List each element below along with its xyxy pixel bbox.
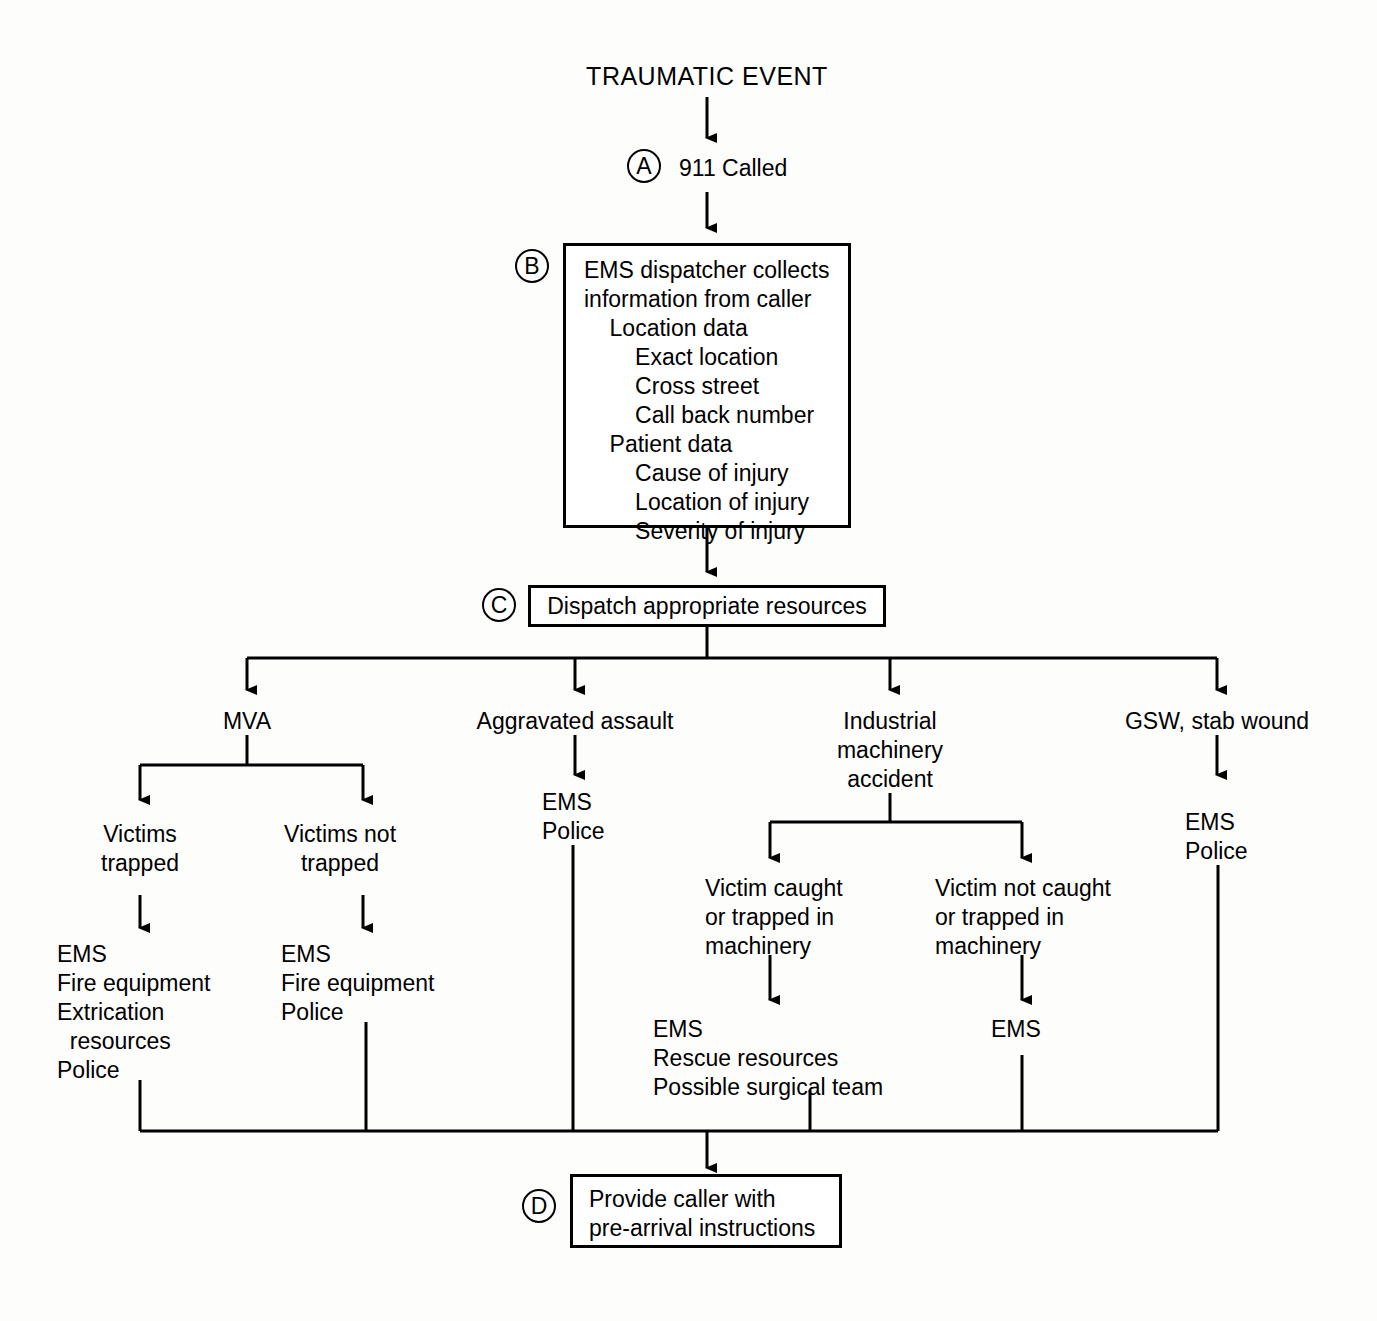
resources-victims-trapped: EMS Fire equipment Extrication resources… [57,940,210,1085]
node-label-victims-not-trapped: Victims not trapped [284,820,396,878]
branch-label-gsw: GSW, stab wound [1125,707,1309,736]
step-a-label: 911 Called [679,154,787,183]
node-label-victim-not-caught: Victim not caught or trapped in machiner… [935,874,1111,961]
resources-gsw: EMS Police [1185,808,1248,866]
resources-victim-caught: EMS Rescue resources Possible surgical t… [653,1015,883,1102]
branch-label-aggravated-assault: Aggravated assault [477,707,674,736]
branch-label-mva: MVA [223,707,271,736]
step-marker-c: C [482,588,516,622]
step-c-label: Dispatch appropriate resources [547,592,867,621]
branch-label-industrial: Industrial machinery accident [837,707,943,794]
step-marker-d: D [522,1189,556,1223]
resources-aggravated-assault: EMS Police [542,788,605,846]
step-marker-a-letter: A [636,153,651,180]
node-label-victim-caught: Victim caught or trapped in machinery [705,874,843,961]
step-marker-a: A [627,149,661,183]
step-marker-d-letter: D [531,1193,548,1220]
flowchart-connectors [0,0,1377,1321]
node-label-victims-trapped: Victims trapped [101,820,179,878]
step-marker-b-letter: B [524,253,539,280]
page-title: TRAUMATIC EVENT [586,62,828,91]
step-d-box: Provide caller with pre-arrival instruct… [570,1174,842,1248]
step-marker-b: B [515,249,549,283]
step-b-box: EMS dispatcher collects information from… [563,243,851,528]
resources-victims-not-trapped: EMS Fire equipment Police [281,940,434,1027]
step-marker-c-letter: C [491,592,508,619]
resources-victim-not-caught: EMS [991,1015,1041,1044]
step-b-text: EMS dispatcher collects information from… [566,246,848,546]
step-c-box: Dispatch appropriate resources [528,585,886,627]
flowchart-canvas: TRAUMATIC EVENT A 911 Called B EMS dispa… [0,0,1377,1321]
step-d-text: Provide caller with pre-arrival instruct… [573,1177,839,1243]
